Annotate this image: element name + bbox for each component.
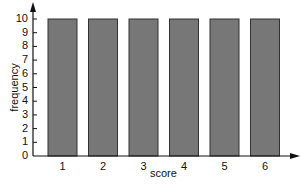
y-tick-label: 1 — [14, 136, 28, 147]
bar — [129, 19, 158, 156]
x-tick-label: 6 — [255, 161, 275, 172]
x-tick-label: 2 — [93, 161, 113, 172]
y-axis-arrow-icon — [30, 2, 36, 12]
x-tick-label: 5 — [215, 161, 235, 172]
bar — [210, 19, 239, 156]
y-tick-label: 0 — [14, 150, 28, 161]
bar — [251, 19, 280, 156]
x-axis-arrow-icon — [290, 153, 300, 159]
bar — [170, 19, 199, 156]
y-tick-label: 10 — [14, 13, 28, 24]
bar-chart: 012345678910 123456 score frequency — [0, 0, 302, 188]
y-tick-label: 9 — [14, 27, 28, 38]
y-tick-label: 2 — [14, 123, 28, 134]
bar — [89, 19, 118, 156]
x-tick-label: 4 — [174, 161, 194, 172]
chart-plot-area — [0, 0, 302, 188]
x-axis-title: score — [150, 168, 177, 179]
y-axis-title: frequency — [9, 60, 20, 116]
y-tick-label: 8 — [14, 40, 28, 51]
x-tick-label: 1 — [53, 161, 73, 172]
bar — [48, 19, 77, 156]
